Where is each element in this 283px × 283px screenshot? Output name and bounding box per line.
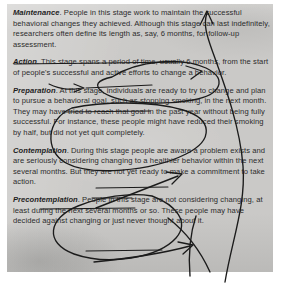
paragraph-precontemplation: Precontemplation. People in this stage a… [13,195,271,227]
stage-heading-contemplation: Contemplation [13,146,67,155]
paragraph-contemplation: Contemplation. During this stage people … [13,146,271,188]
paragraph-preparation: Preparation. At this stage, individuals … [13,86,271,139]
page-text-block: Maintenance. People in this stage work t… [13,8,271,227]
stage-heading-preparation: Preparation [13,86,56,95]
paragraph-action: Action. This stage spans a period of tim… [13,57,271,78]
stage-heading-precontemplation: Precontemplation [13,195,78,204]
stage-body-action: . This stage spans a period of time, usu… [13,57,268,77]
stage-heading-action: Action [13,57,37,66]
paragraph-maintenance: Maintenance. People in this stage work t… [13,8,271,50]
stage-heading-maintenance: Maintenance [13,8,59,17]
scanned-page-image: Maintenance. People in this stage work t… [0,0,283,283]
